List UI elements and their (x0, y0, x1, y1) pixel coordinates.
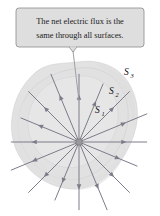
callout-line-1: The net electric flux is the (36, 17, 124, 26)
label-s1-base: S (95, 105, 100, 115)
callout-box-background (16, 8, 144, 47)
callout-line-2: same through all surfaces. (36, 31, 123, 40)
label-s2-base: S (109, 86, 114, 96)
label-s1-subscript: 1 (102, 110, 105, 117)
callout-box: The net electric flux is the same throug… (16, 8, 144, 52)
electric-flux-figure: S 1 S 2 S 3 The net electric flux is the… (0, 0, 160, 216)
label-s3-subscript: 3 (130, 72, 134, 79)
point-charge (76, 139, 82, 145)
label-s3-base: S (124, 67, 129, 77)
